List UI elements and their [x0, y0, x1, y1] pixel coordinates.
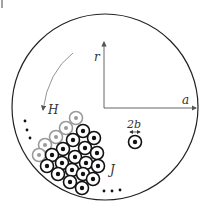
conductor-bundle-diagram: r a H 2b J: [0, 0, 208, 212]
diameter-label: 2b: [126, 118, 141, 131]
outer-boundary-circle: [12, 14, 198, 200]
r-label: r: [94, 50, 101, 64]
a-label: a: [182, 93, 189, 107]
ellipsis-left: [24, 120, 32, 140]
single-conductor: [129, 136, 142, 149]
j-label: J: [107, 163, 116, 177]
ellipsis-bottom: [103, 189, 122, 193]
h-label: H: [47, 103, 59, 117]
h-field-arc-arrow: [43, 53, 73, 110]
